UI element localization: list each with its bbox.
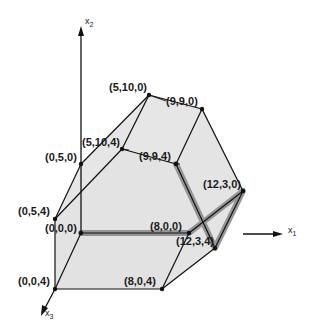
label-0-5-4: (0,5,4)	[18, 205, 50, 217]
x3-axis-label: x3	[45, 308, 54, 320]
label-0-0-0: (0,0,0)	[45, 222, 77, 234]
x2-arrowhead-icon	[78, 26, 84, 36]
label-9-9-4: (9,9,4)	[139, 150, 171, 162]
x2-axis-label: x2	[85, 16, 94, 28]
label-8-0-0: (8,0,0)	[150, 220, 182, 232]
x1-axis-label: x1	[288, 225, 297, 237]
x1-arrowhead-icon	[273, 231, 283, 237]
label-0-0-4: (0,0,4)	[18, 275, 50, 287]
label-0-5-0: (0,5,0)	[45, 151, 77, 163]
label-9-9-0: (9,9,0)	[166, 95, 198, 107]
label-5-10-4: (5,10,4)	[82, 136, 120, 148]
polytope-diagram: (0,0,0) (8,0,0) (0,0,4) (8,0,4) (0,5,0) …	[0, 0, 311, 335]
label-8-0-4: (8,0,4)	[124, 275, 156, 287]
label-12-3-4: (12,3,4)	[176, 235, 214, 247]
label-5-10-0: (5,10,0)	[109, 81, 147, 93]
label-12-3-0: (12,3,0)	[203, 178, 241, 190]
polytope-faces	[55, 95, 243, 289]
